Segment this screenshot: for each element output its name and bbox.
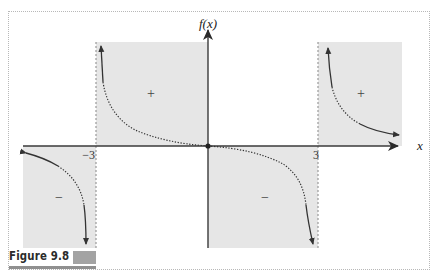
figure-caption-underline <box>9 266 96 269</box>
y-axis-label: f(x) <box>199 16 217 31</box>
rational-function-graph: + + − − −3 3 f(x) x <box>0 0 436 275</box>
origin-point <box>205 143 210 148</box>
x-axis-label: x <box>416 138 423 153</box>
sign-top-right: + <box>357 86 365 101</box>
tick-label-3: 3 <box>313 148 319 162</box>
tick-label-neg3: −3 <box>82 148 95 162</box>
sign-bottom-right: − <box>261 190 269 205</box>
figure-caption-swatch <box>73 251 96 264</box>
sign-bottom-left: − <box>55 190 63 205</box>
sign-top-left: + <box>147 86 155 101</box>
figure-caption-label: Figure 9.8 <box>9 249 69 263</box>
